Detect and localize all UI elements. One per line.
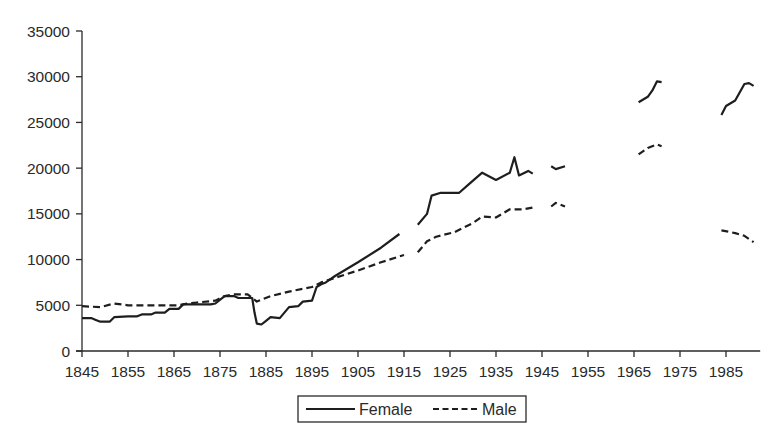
legend-label-male: Male <box>482 401 517 418</box>
series-line-female <box>82 234 399 325</box>
y-tick-label: 0 <box>61 343 70 360</box>
series-line-male <box>551 203 565 207</box>
x-axis: 1845185518651875188518951905191519251935… <box>65 351 760 380</box>
x-tick-label: 1885 <box>249 363 283 380</box>
y-tick-label: 5000 <box>36 297 71 314</box>
series-line-female <box>721 83 753 115</box>
x-tick-label: 1865 <box>157 363 191 380</box>
series-line-female <box>639 81 662 102</box>
x-tick-label: 1845 <box>65 363 99 380</box>
x-tick-label: 1905 <box>341 363 375 380</box>
y-axis: 05000100001500020000250003000035000 <box>27 23 82 360</box>
series-line-male <box>639 144 662 154</box>
plot-area <box>82 81 754 324</box>
y-tick-label: 20000 <box>27 160 70 177</box>
legend: Female Male <box>298 396 526 422</box>
y-tick-label: 10000 <box>27 251 70 268</box>
series-line-female <box>551 166 565 169</box>
x-tick-label: 1945 <box>525 363 559 380</box>
x-tick-label: 1975 <box>663 363 697 380</box>
x-tick-label: 1935 <box>479 363 513 380</box>
y-tick-label: 35000 <box>27 23 70 40</box>
x-tick-label: 1925 <box>433 363 467 380</box>
x-tick-label: 1875 <box>203 363 237 380</box>
legend-label-female: Female <box>359 401 412 418</box>
series-line-female <box>418 157 533 225</box>
x-tick-label: 1965 <box>617 363 651 380</box>
x-tick-label: 1855 <box>111 363 145 380</box>
y-tick-label: 25000 <box>27 114 70 131</box>
series-line-male <box>418 208 533 253</box>
x-tick-label: 1985 <box>709 363 743 380</box>
y-tick-label: 15000 <box>27 205 70 222</box>
line-chart: 05000100001500020000250003000035000 1845… <box>0 0 777 447</box>
x-tick-label: 1895 <box>295 363 329 380</box>
x-tick-label: 1955 <box>571 363 605 380</box>
x-tick-label: 1915 <box>387 363 421 380</box>
series-line-male <box>721 230 753 242</box>
y-tick-label: 30000 <box>27 68 70 85</box>
